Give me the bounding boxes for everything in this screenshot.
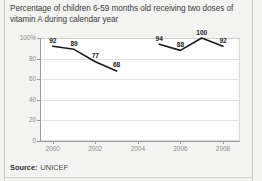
data-point-label: 100 <box>196 29 207 36</box>
source-note: Source:UNICEF <box>10 163 68 172</box>
source-value: UNICEF <box>41 163 69 172</box>
chart-title: Percentage of children 6-59 months old r… <box>10 4 250 25</box>
source-label: Source: <box>10 163 38 172</box>
series-line <box>53 46 117 71</box>
chart-area: 100%806040200 20002002200420062008 92897… <box>10 33 248 148</box>
left-border <box>4 0 5 181</box>
data-point-label: 68 <box>113 61 120 68</box>
data-point-label: 92 <box>219 37 226 44</box>
data-point-label: 92 <box>49 37 56 44</box>
series-line <box>159 38 223 50</box>
data-point-label: 88 <box>177 41 184 48</box>
bottom-border <box>4 177 253 178</box>
series-lines <box>10 33 248 148</box>
data-point-label: 77 <box>92 52 99 59</box>
right-border <box>252 0 253 181</box>
chart-page: Percentage of children 6-59 months old r… <box>0 0 262 181</box>
data-point-label: 94 <box>156 35 163 42</box>
data-point-label: 89 <box>70 40 77 47</box>
